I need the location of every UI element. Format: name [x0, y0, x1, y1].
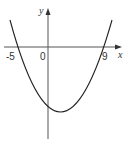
x-axis-label: x — [117, 49, 123, 60]
y-axis-label: y — [38, 5, 44, 16]
y-axis-arrow-icon — [46, 8, 51, 15]
parabola-graph: y x 0 -5 9 — [0, 0, 128, 148]
parabola-curve — [10, 20, 112, 112]
origin-label: 0 — [40, 51, 46, 62]
root-left-label: -5 — [6, 51, 15, 62]
root-right-label: 9 — [102, 51, 108, 62]
